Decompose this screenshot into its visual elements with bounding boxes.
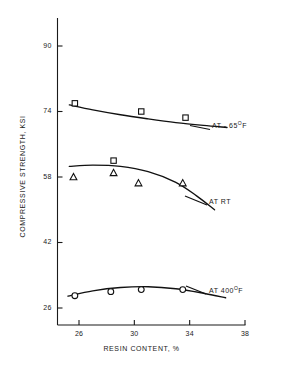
marker-square [183, 115, 188, 120]
data-point-markers [70, 101, 188, 299]
marker-circle [138, 287, 144, 293]
series-label-suffix: F [242, 122, 247, 129]
marker-triangle [179, 180, 186, 186]
series-label-suffix: F [238, 287, 243, 294]
x-axis-title: RESIN CONTENT, % [0, 345, 283, 352]
x-tick-label: 26 [67, 330, 91, 337]
marker-triangle [110, 169, 117, 175]
label-leader-lines [185, 126, 210, 295]
y-axis-title: COMPRESSIVE STRENGTH, KSI [19, 82, 26, 272]
x-tick-label: 30 [122, 330, 146, 337]
marker-circle [72, 293, 78, 299]
marker-square [111, 158, 116, 163]
series-curve [69, 105, 227, 128]
label-leader-line [186, 286, 206, 294]
axis-ticks [58, 46, 246, 325]
marker-square [139, 109, 144, 114]
y-tick-label: 74 [30, 107, 52, 114]
trend-curves [68, 105, 227, 298]
marker-circle [108, 289, 114, 295]
chart-figure: 264258749026303438 AT - 65OFAT RTAT 400O… [0, 0, 283, 365]
marker-triangle [135, 180, 142, 186]
x-tick-label: 38 [233, 330, 257, 337]
series-label: AT RT [209, 198, 231, 205]
series-label: AT - 65OF [212, 122, 247, 129]
y-tick-label: 90 [30, 42, 52, 49]
series-label-text: AT - 65 [212, 122, 238, 129]
marker-square [72, 101, 77, 106]
series-label-text: AT RT [209, 198, 231, 205]
y-tick-label: 26 [30, 304, 52, 311]
x-tick-label: 34 [178, 330, 202, 337]
series-label: AT 400OF [209, 287, 243, 294]
y-tick-label: 58 [30, 173, 52, 180]
series-curve [69, 165, 214, 210]
y-tick-label: 42 [30, 238, 52, 245]
axes [58, 18, 246, 325]
series-label-text: AT 400 [209, 287, 234, 294]
marker-triangle [70, 173, 77, 179]
marker-circle [180, 287, 186, 293]
